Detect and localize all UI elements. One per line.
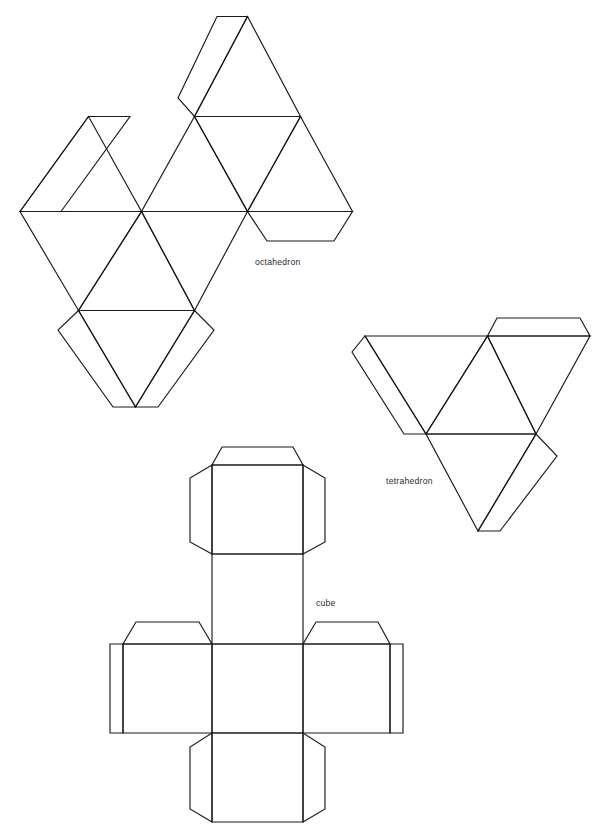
cube-tab-top-left bbox=[190, 465, 212, 554]
cube-tab-bottom-right bbox=[303, 733, 325, 822]
octahedron-face-bottom bbox=[79, 311, 195, 408]
octahedron-label: octahedron bbox=[255, 257, 301, 267]
octahedron-face-row2-outerleft bbox=[142, 117, 248, 212]
cube-face-left bbox=[123, 644, 212, 733]
octahedron-tab-upper-left bbox=[178, 17, 248, 117]
tetrahedron-face-bottom bbox=[426, 434, 536, 531]
cube-face-bottom bbox=[212, 733, 303, 822]
octahedron-face-row2-outerright bbox=[248, 117, 353, 212]
octahedron-tab-bottom-right bbox=[136, 311, 215, 408]
tetrahedron-face-center bbox=[426, 336, 536, 434]
octahedron-tab-right bbox=[248, 212, 353, 242]
cube-tab-left-outer bbox=[110, 644, 123, 733]
tetrahedron-tab-right bbox=[478, 434, 557, 531]
cube-label: cube bbox=[316, 598, 336, 608]
octahedron-tab-bottom-left bbox=[58, 311, 136, 408]
octahedron-net: octahedron bbox=[20, 17, 353, 408]
tetrahedron-tab-left bbox=[352, 336, 426, 434]
cube-tab-right-outer bbox=[390, 644, 403, 733]
cube-tab-top bbox=[212, 447, 303, 465]
octahedron-face-row2-left bbox=[195, 117, 301, 212]
cube-face-top bbox=[212, 465, 303, 554]
cube-tab-bottom-left bbox=[190, 733, 212, 822]
cube-face-center bbox=[212, 644, 303, 733]
octahedron-tab-left-top bbox=[20, 117, 130, 212]
octahedron-face-row3-right bbox=[142, 212, 248, 311]
cube-tab-top-right bbox=[303, 465, 325, 554]
tetrahedron-face-right bbox=[488, 336, 591, 434]
cube-face-right bbox=[303, 644, 390, 733]
octahedron-face-row3-left bbox=[20, 212, 142, 311]
cube-face-upper-middle bbox=[212, 554, 303, 644]
worksheet-sheet: octahedron tetrahedron bbox=[0, 0, 609, 836]
octahedron-face-row3-middle bbox=[79, 212, 195, 311]
tetrahedron-tab-top bbox=[488, 318, 591, 336]
cube-tab-right-top bbox=[303, 622, 390, 644]
tetrahedron-net: tetrahedron bbox=[352, 318, 590, 531]
tetrahedron-face-left bbox=[365, 336, 488, 434]
nets-canvas: octahedron tetrahedron bbox=[0, 0, 609, 836]
octahedron-face-left-upper bbox=[20, 117, 142, 212]
tetrahedron-label: tetrahedron bbox=[386, 476, 433, 486]
cube-net: cube bbox=[110, 447, 403, 822]
cube-tab-left-top bbox=[123, 622, 212, 644]
